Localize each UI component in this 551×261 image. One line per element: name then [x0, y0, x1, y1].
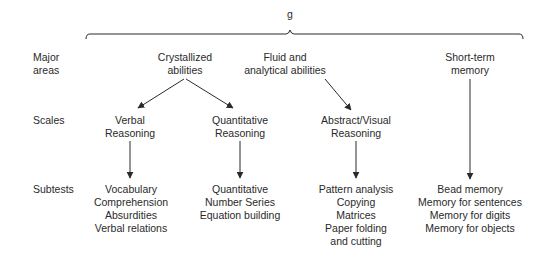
major-area-crystallized: Crystallized abilities — [158, 51, 212, 77]
subtest-item: Vocabulary — [94, 183, 168, 196]
scale-quantitative-reasoning: Quantitative Reasoning — [212, 114, 268, 140]
row-label-subtests: Subtests — [33, 183, 74, 196]
subtest-item: Absurdities — [94, 209, 168, 222]
major-area-short-term-memory: Short-term memory — [445, 51, 495, 77]
scale-verbal-reasoning: Verbal Reasoning — [105, 114, 155, 140]
row-label-major-areas-line1: Major — [33, 51, 59, 64]
scale-verbal-line2: Reasoning — [105, 127, 155, 140]
subtest-item: Memory for digits — [418, 209, 522, 222]
subtest-item: and cutting — [319, 235, 394, 248]
row-label-major-areas: Major areas — [33, 51, 59, 77]
scale-quantitative-line2: Reasoning — [212, 127, 268, 140]
subtests-abstract-visual: Pattern analysis Copying Matrices Paper … — [319, 183, 394, 248]
subtest-item: Equation building — [200, 209, 281, 222]
subtest-item: Memory for objects — [418, 222, 522, 235]
subtest-item: Bead memory — [418, 183, 522, 196]
arrow-crystallized-to-verbal — [138, 79, 184, 108]
arrow-crystallized-to-quantitative — [186, 79, 233, 108]
subtest-item: Quantitative — [200, 183, 281, 196]
row-label-scales: Scales — [33, 114, 65, 127]
subtest-item: Comprehension — [94, 196, 168, 209]
major-area-short-term-line1: Short-term — [445, 51, 495, 64]
subtest-item: Paper folding — [319, 222, 394, 235]
subtests-quantitative: Quantitative Number Series Equation buil… — [200, 183, 281, 222]
subtest-item: Pattern analysis — [319, 183, 394, 196]
major-area-short-term-line2: memory — [445, 64, 495, 77]
major-area-crystallized-line1: Crystallized — [158, 51, 212, 64]
subtest-item: Copying — [319, 196, 394, 209]
subtest-item: Memory for sentences — [418, 196, 522, 209]
subtest-item: Matrices — [319, 209, 394, 222]
major-area-fluid-line1: Fluid and — [244, 51, 326, 64]
arrow-fluid-to-abstract — [325, 79, 351, 110]
subtests-verbal: Vocabulary Comprehension Absurdities Ver… — [94, 183, 168, 235]
subtest-item: Number Series — [200, 196, 281, 209]
scale-abstract-visual-reasoning: Abstract/Visual Reasoning — [321, 114, 391, 140]
g-brace — [86, 30, 523, 39]
scale-quantitative-line1: Quantitative — [212, 114, 268, 127]
major-area-fluid: Fluid and analytical abilities — [244, 51, 326, 77]
subtest-item: Verbal relations — [94, 222, 168, 235]
subtests-short-term-memory: Bead memory Memory for sentences Memory … — [418, 183, 522, 235]
scale-abstract-line1: Abstract/Visual — [321, 114, 391, 127]
root-node-g: g — [287, 8, 293, 21]
scale-abstract-line2: Reasoning — [321, 127, 391, 140]
row-label-major-areas-line2: areas — [33, 64, 59, 77]
major-area-fluid-line2: analytical abilities — [244, 64, 326, 77]
scale-verbal-line1: Verbal — [105, 114, 155, 127]
major-area-crystallized-line2: abilities — [158, 64, 212, 77]
